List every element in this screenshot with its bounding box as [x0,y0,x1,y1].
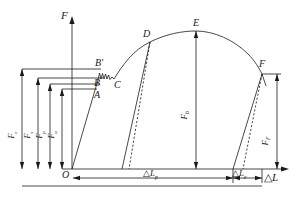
x-axis-delta-glyph: △ [264,171,272,183]
dimension-label-Fp-base: F [35,134,44,139]
dimension-label-dLp-sub: p [155,174,158,180]
dimension-label-Fe: Fe [8,131,19,138]
dimension-label-Fe-sub: e [13,131,18,133]
dimension-arrow-FF [275,74,279,169]
point-label-D: D [143,29,150,39]
point-label-A: A [94,90,100,100]
dimension-label-Fe-base: F [7,134,16,139]
y-axis-arrowhead [69,16,74,24]
dimension-label-dLp-delta: △ [143,168,150,178]
dimension-label-Fa: Fa [48,131,59,138]
dimension-label-Fs-sub: s [29,132,34,134]
curve-segment-yield-zigzag [98,73,114,80]
y-axis-label: F [61,10,68,21]
dimension-label-Fp: Fp [36,131,47,138]
unload-line-F [243,74,262,169]
dimension-label-Fb-base: F [179,114,189,120]
dimension-arrow-Fb [194,31,198,169]
dimension-label-Fb: Fb [180,111,191,119]
dimension-label-FF-base: F [260,140,270,146]
figure-canvas: F △L O A B B′ C D E F Fe Fs Fp Fa Fb FF … [0,0,300,201]
dimension-label-Fb-sub: b [184,111,190,114]
dimension-label-FF-sub: F [265,136,271,139]
dimension-label-FF: FF [261,136,272,145]
dimension-label-dLp: △Lp [143,169,158,180]
dimension-label-Fp-sub: p [41,131,46,133]
unload-line-D [129,42,150,169]
point-label-C: C [114,80,121,90]
x-axis-label: △L [264,172,278,183]
x-axis-var-glyph: L [272,171,278,183]
point-label-prime-mark: ′ [101,57,103,68]
point-label-B: B [94,78,100,88]
curve-segment-OA [72,90,95,169]
dimension-label-dLe-delta: △ [232,168,239,178]
dimension-label-Fa-base: F [47,134,56,139]
dimension-label-Fs: Fs [24,132,35,139]
dimension-label-Fa-sub: a [53,131,58,133]
dimension-label-dLe-sub: e [244,174,246,180]
unload-line-F-solid [233,74,262,169]
curve-fracture-drop [262,74,266,86]
point-label-E: E [193,18,199,28]
point-label-B-prime: B′ [95,58,103,68]
point-label-F: F [259,59,265,69]
curve-segment-CDEF [114,31,262,79]
origin-label: O [62,170,69,180]
x-axis-arrowhead [281,166,289,171]
dimension-label-Fs-base: F [23,134,32,139]
dimension-label-dLe: △Le [232,169,247,180]
unload-line-D-solid [122,42,150,169]
